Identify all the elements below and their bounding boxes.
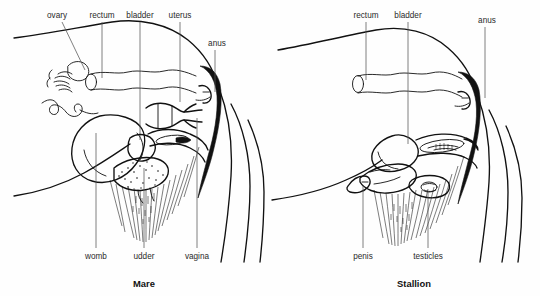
label-bladder: bladder bbox=[394, 11, 422, 20]
mare-oviduct-coil bbox=[42, 100, 98, 117]
label-penis: penis bbox=[353, 252, 373, 261]
mare-hatching bbox=[110, 147, 199, 242]
mare-udder bbox=[114, 157, 168, 203]
label-anus: anus bbox=[478, 16, 496, 25]
stallion-top-labels: rectum bladder anus bbox=[353, 11, 495, 25]
label-udder: udder bbox=[134, 252, 155, 261]
mare-ovary bbox=[47, 62, 89, 92]
label-uterus: uterus bbox=[169, 11, 192, 20]
label-womb: womb bbox=[84, 252, 107, 261]
label-vagina: vagina bbox=[185, 252, 210, 261]
mare-diagram-panel: ovary rectum bladder uterus anus womb ud… bbox=[0, 0, 270, 296]
stallion-caption: Stallion bbox=[397, 278, 431, 289]
mare-uterus bbox=[146, 103, 202, 128]
stallion-bladder bbox=[372, 135, 419, 172]
figure-root: ovary rectum bladder uterus anus womb ud… bbox=[0, 0, 540, 296]
stallion-illustration: rectum bladder anus penis testicles Stal… bbox=[270, 0, 540, 296]
mare-illustration: ovary rectum bladder uterus anus womb ud… bbox=[0, 0, 270, 296]
label-anus: anus bbox=[208, 39, 226, 48]
label-ovary: ovary bbox=[47, 11, 68, 20]
label-bladder: bladder bbox=[126, 11, 154, 20]
label-rectum: rectum bbox=[353, 11, 378, 20]
stallion-bottom-labels: penis testicles bbox=[353, 252, 443, 261]
mare-vagina bbox=[148, 130, 208, 163]
stallion-body-outline bbox=[272, 28, 522, 262]
mare-anus bbox=[196, 66, 221, 198]
stallion-rectum bbox=[353, 72, 463, 97]
label-testicles: testicles bbox=[413, 252, 443, 261]
label-rectum: rectum bbox=[89, 11, 114, 20]
stallion-diagram-panel: rectum bladder anus penis testicles Stal… bbox=[270, 0, 540, 296]
mare-top-labels: ovary rectum bladder uterus anus bbox=[47, 11, 226, 48]
mare-body-outline bbox=[14, 21, 264, 262]
mare-bottom-labels: womb udder vagina bbox=[84, 252, 209, 261]
mare-caption: Mare bbox=[133, 278, 155, 289]
stallion-leader-lines bbox=[363, 22, 485, 248]
